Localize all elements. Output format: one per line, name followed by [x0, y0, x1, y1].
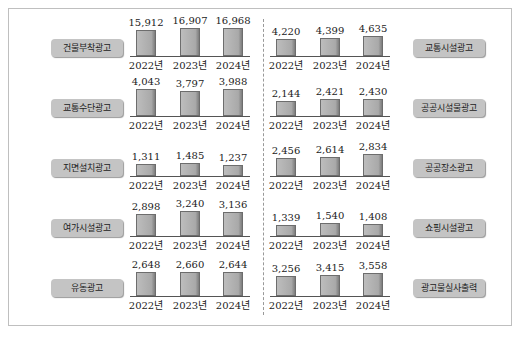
bar	[180, 91, 200, 116]
x-tick-label: 2024년	[211, 177, 255, 192]
x-tick-label: 2022년	[124, 57, 168, 72]
bar	[276, 276, 296, 296]
bar-value-label: 2,648	[124, 259, 168, 270]
series-label-pill: 건물부착광고	[51, 39, 123, 57]
bar-value-label: 1,339	[264, 212, 308, 223]
bar	[320, 38, 340, 56]
bar-value-label: 1,408	[351, 211, 395, 222]
x-tick-label: 2024년	[351, 57, 395, 72]
x-tick-label: 2023년	[168, 57, 212, 72]
bar-value-label: 4,399	[308, 25, 352, 36]
bar	[223, 272, 243, 296]
bar	[223, 89, 243, 116]
bar	[363, 154, 383, 176]
bar	[180, 211, 200, 236]
bar-value-label: 2,430	[351, 86, 395, 97]
bar-value-label: 4,043	[124, 76, 168, 87]
x-tick-label: 2022년	[264, 177, 308, 192]
bar-value-label: 2,421	[308, 86, 352, 97]
bar-value-label: 2,644	[211, 259, 255, 270]
x-tick-label: 2022년	[264, 237, 308, 252]
series-label-pill: 교통수단광고	[51, 99, 123, 117]
bar-value-label: 3,136	[211, 199, 255, 210]
bar-value-label: 2,834	[351, 141, 395, 152]
x-tick-label: 2023년	[308, 117, 352, 132]
bar-value-label: 3,415	[308, 262, 352, 273]
bar-value-label: 2,614	[308, 144, 352, 155]
x-tick-label: 2023년	[168, 177, 212, 192]
x-tick-label: 2023년	[308, 237, 352, 252]
x-tick-label: 2022년	[264, 297, 308, 312]
x-tick-label: 2023년	[308, 177, 352, 192]
x-tick-label: 2024년	[351, 117, 395, 132]
bar	[276, 158, 296, 176]
x-tick-label: 2024년	[351, 297, 395, 312]
bar	[363, 273, 383, 296]
bar	[363, 99, 383, 116]
series-label-pill: 공공시설물광고	[413, 99, 485, 117]
bar-value-label: 3,256	[264, 263, 308, 274]
bar	[276, 101, 296, 116]
bar	[363, 36, 383, 56]
bar-value-label: 3,988	[211, 76, 255, 87]
series-label-pill: 지면설치광고	[51, 159, 123, 177]
bar-value-label: 2,456	[264, 145, 308, 156]
x-tick-label: 2024년	[211, 57, 255, 72]
x-tick-label: 2024년	[351, 177, 395, 192]
bar-value-label: 15,912	[124, 17, 168, 28]
x-tick-label: 2023년	[168, 297, 212, 312]
bar-value-label: 3,797	[168, 78, 212, 89]
x-tick-label: 2023년	[308, 57, 352, 72]
bar	[320, 157, 340, 176]
bar	[320, 223, 340, 236]
bar-value-label: 16,907	[168, 15, 212, 26]
bar-value-label: 2,144	[264, 88, 308, 99]
x-tick-label: 2024년	[351, 237, 395, 252]
bar	[136, 89, 156, 116]
x-tick-label: 2023년	[168, 117, 212, 132]
bar	[276, 39, 296, 56]
bar-value-label: 1,540	[308, 210, 352, 221]
x-tick-label: 2022년	[124, 117, 168, 132]
bar	[320, 275, 340, 296]
x-tick-label: 2022년	[124, 237, 168, 252]
bar-value-label: 3,558	[351, 260, 395, 271]
series-label-pill: 교통시설광고	[413, 39, 485, 57]
bar-value-label: 4,220	[264, 26, 308, 37]
bar-value-label: 16,968	[211, 15, 255, 26]
x-tick-label: 2022년	[264, 117, 308, 132]
bar	[180, 272, 200, 296]
x-tick-label: 2023년	[308, 297, 352, 312]
bar-value-label: 3,240	[168, 198, 212, 209]
series-label-pill: 쇼핑시설광고	[413, 219, 485, 237]
x-tick-label: 2022년	[124, 177, 168, 192]
x-tick-label: 2024년	[211, 297, 255, 312]
bar	[276, 225, 296, 236]
bar	[223, 165, 243, 176]
bar	[223, 212, 243, 236]
x-tick-label: 2024년	[211, 237, 255, 252]
bar-value-label: 1,485	[168, 150, 212, 161]
bar	[180, 163, 200, 176]
bar-value-label: 1,237	[211, 152, 255, 163]
bar	[363, 224, 383, 236]
series-label-pill: 공공장소광고	[413, 159, 485, 177]
bar	[180, 28, 200, 56]
bar	[320, 99, 340, 116]
x-tick-label: 2024년	[211, 117, 255, 132]
bar-value-label: 1,311	[124, 151, 168, 162]
bar	[136, 164, 156, 176]
bar-value-label: 2,660	[168, 259, 212, 270]
bar	[136, 214, 156, 236]
x-tick-label: 2022년	[264, 57, 308, 72]
bar	[136, 30, 156, 56]
bar	[223, 28, 243, 56]
series-label-pill: 여가시설광고	[51, 219, 123, 237]
bar-value-label: 4,635	[351, 23, 395, 34]
bar	[136, 272, 156, 296]
bar-value-label: 2,898	[124, 201, 168, 212]
x-tick-label: 2023년	[168, 237, 212, 252]
series-label-pill: 광고물실사출력	[413, 279, 485, 297]
series-label-pill: 유동광고	[51, 279, 123, 297]
x-tick-label: 2022년	[124, 297, 168, 312]
